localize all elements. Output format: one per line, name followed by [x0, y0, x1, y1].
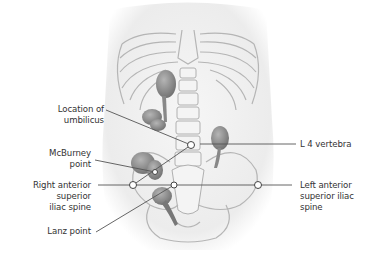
label-line: superior iliac [300, 191, 376, 202]
label-line: Right anterior [0, 180, 91, 191]
label-line: superior [0, 191, 91, 202]
right-asis-point [130, 182, 137, 189]
label-line: spine [300, 202, 376, 213]
label-line: iliac spine [0, 202, 91, 213]
label-umbilicus: Location of umbilicus [4, 104, 104, 126]
label-l4: L 4 vertebra [300, 139, 376, 150]
umbilicus-point [188, 142, 195, 149]
label-left-asis: Left anterior superior iliac spine [300, 180, 376, 213]
label-line: L 4 vertebra [300, 139, 376, 150]
label-line: Location of [4, 104, 104, 115]
label-line: McBurney [0, 148, 91, 159]
label-line: umbilicus [4, 115, 104, 126]
lanz-point [171, 182, 177, 188]
mcburney-point [153, 170, 158, 175]
label-right-asis: Right anterior superior iliac spine [0, 180, 91, 213]
label-lanz: Lanz point [0, 226, 91, 237]
label-mcburney: McBurney point [0, 148, 91, 170]
left-asis-point [255, 182, 262, 189]
label-line: point [0, 159, 91, 170]
anatomy-diagram: Location of umbilicus McBurney point Rig… [0, 0, 376, 260]
anatomy-illustration [0, 0, 376, 260]
label-line: Left anterior [300, 180, 376, 191]
label-line: Lanz point [0, 226, 91, 237]
